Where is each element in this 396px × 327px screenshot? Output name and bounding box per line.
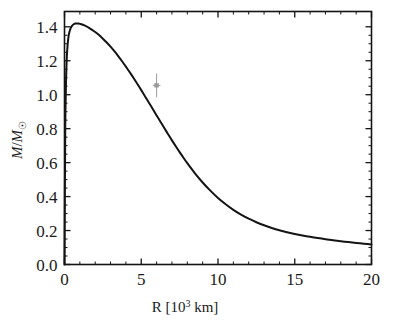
x-tick-label: 5 [137, 270, 146, 289]
y-tick-label: 0.2 [36, 222, 57, 241]
x-tick-label: 0 [60, 270, 69, 289]
x-tick-label: 15 [286, 270, 303, 289]
mass-radius-plot: 05101520 0.00.20.40.60.81.01.21.4 R [103… [0, 0, 396, 327]
y-tick-label: 0.6 [36, 154, 57, 173]
svg-text:R [103 km]: R [103 km] [152, 298, 219, 315]
x-axis-title-symbol: R [152, 299, 162, 315]
y-tick-label: 0.4 [36, 188, 58, 207]
chart-figure: 05101520 0.00.20.40.60.81.01.21.4 R [103… [0, 0, 396, 327]
x-tick-label: 20 [363, 270, 380, 289]
y-tick-label: 1.0 [36, 86, 57, 105]
x-tick-label: 10 [210, 270, 227, 289]
x-axis-title-unit: km [194, 299, 214, 315]
y-tick-label: 0.8 [36, 120, 57, 139]
y-axis-title-subscript: ☉ [17, 121, 28, 130]
x-axis-title-close-bracket: ] [213, 299, 218, 315]
y-tick-label: 1.2 [36, 52, 57, 71]
y-tick-label: 0.0 [36, 256, 57, 275]
x-axis-title: R [103 km] [152, 298, 219, 315]
x-axis-title-base: 10 [170, 299, 185, 315]
y-tick-label: 1.4 [36, 18, 58, 37]
